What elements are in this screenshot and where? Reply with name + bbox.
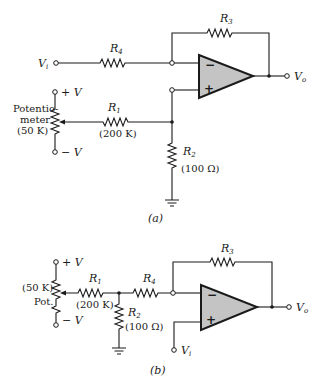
ground-icon-b xyxy=(112,348,126,354)
output-junction-b xyxy=(270,305,274,309)
r2-label-a: R2 xyxy=(182,145,196,159)
r1-value-a: (200 K) xyxy=(99,128,137,139)
noninverting-sign-b: + xyxy=(206,313,216,327)
circuit-figure: Vi R4 R3 − + Vo R2 (100 Ω) R1 (2 xyxy=(0,0,316,390)
output-terminal-b xyxy=(287,305,292,310)
r1-value-b: (200 K) xyxy=(76,299,114,310)
plus-v-label-a: + V xyxy=(61,86,83,99)
r4-label-a: R4 xyxy=(109,42,123,56)
plus-v-label-b: + V xyxy=(62,256,84,269)
r1-label-b: R1 xyxy=(88,272,102,286)
diagram-b: + V − V (50 K) Pot. R1 (200 K) R4 R2 (10… xyxy=(22,242,308,377)
resistor-r1-b xyxy=(63,289,119,297)
output-junction-a xyxy=(267,74,271,78)
resistor-r4-b xyxy=(119,289,171,297)
r4-label-b: R4 xyxy=(142,272,156,286)
diagram-a: Vi R4 R3 − + Vo R2 (100 Ω) R1 (2 xyxy=(13,12,306,225)
pot-value-b: (50 K) xyxy=(22,282,53,293)
minus-v-label-b: − V xyxy=(62,314,84,327)
resistor-r4-a xyxy=(58,59,170,67)
resistor-r2-b xyxy=(115,293,123,348)
r3-label-a: R3 xyxy=(219,12,233,26)
wiper-arrow-icon-a xyxy=(59,120,65,125)
r2-label-b: R2 xyxy=(127,306,141,320)
plus-v-terminal-b xyxy=(54,260,59,265)
resistor-r2-a xyxy=(168,92,176,200)
input-terminal-b xyxy=(172,348,177,353)
minus-v-label-a: − V xyxy=(61,146,83,159)
input-terminal-a xyxy=(54,61,59,66)
inverting-node-b xyxy=(171,291,176,296)
pot-label-line2-a: meter xyxy=(20,114,50,125)
caption-b: (b) xyxy=(150,364,166,377)
caption-a: (a) xyxy=(148,212,163,225)
inverting-sign-a: − xyxy=(205,58,215,72)
r3-label-b: R3 xyxy=(220,242,234,256)
inverting-sign-b: − xyxy=(207,288,217,302)
output-terminal-a xyxy=(285,74,290,79)
ground-icon-a xyxy=(165,200,179,206)
minus-v-terminal-a xyxy=(53,150,58,155)
potentiometer-b xyxy=(52,264,60,322)
output-label-b: Vo xyxy=(296,301,308,315)
pot-label-line1-a: Potentio- xyxy=(13,103,58,114)
output-label-a: Vo xyxy=(294,70,306,84)
pot-value-a: (50 K) xyxy=(17,125,48,136)
plus-v-terminal-a xyxy=(53,90,58,95)
resistor-r1-a xyxy=(62,118,172,126)
inverting-node-a xyxy=(170,61,175,66)
noninverting-node-a xyxy=(170,88,175,93)
r2-value-a: (100 Ω) xyxy=(181,163,219,174)
pot-label-b: Pot. xyxy=(34,296,54,307)
minus-v-terminal-b xyxy=(54,323,59,328)
r2-value-b: (100 Ω) xyxy=(125,321,163,332)
input-label-b: Vi xyxy=(181,344,191,358)
input-label-a: Vi xyxy=(38,57,48,71)
noninverting-sign-a: + xyxy=(204,82,214,96)
r1-label-a: R1 xyxy=(107,101,121,115)
